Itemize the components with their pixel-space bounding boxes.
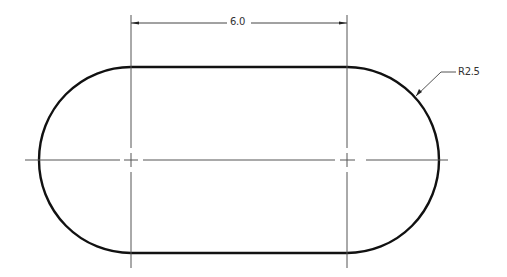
dimension-label-radius: R2.5 — [457, 67, 481, 77]
drawing-canvas: 6.0 R2.5 — [0, 0, 507, 277]
slot-drawing — [0, 0, 507, 277]
dimension-label-center-distance: 6.0 — [229, 17, 246, 27]
radius-leader — [416, 72, 456, 96]
